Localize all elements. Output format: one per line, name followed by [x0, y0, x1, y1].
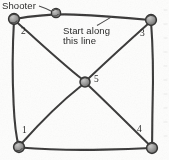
vertex-label-4: 4: [137, 125, 142, 135]
marble-2-top-left: [9, 14, 20, 25]
scan-bleed-marks: [164, 10, 167, 136]
marble-shooter: [51, 8, 60, 17]
square-edge-top: [15, 14, 150, 20]
marble-1-bottom-left: [14, 142, 25, 153]
start-note: Start along this line: [63, 26, 110, 46]
marble-3-top-right: [146, 15, 157, 26]
marble-5-center: [80, 77, 90, 87]
square-edge-bottom: [20, 148, 151, 150]
square-edge-right: [151, 21, 153, 147]
shooter-label: Shooter: [2, 1, 36, 11]
marble-game-diagram: Shooter Start along this line 2 3 1 4 5: [0, 0, 169, 160]
vertex-label-1: 1: [22, 126, 27, 136]
diagonal-5-to-4: [89, 86, 150, 145]
vertex-label-2: 2: [21, 27, 26, 37]
marble-4-bottom-right: [147, 143, 158, 154]
shooter-leader-line: [39, 6, 52, 12]
diagonal-5-to-1: [22, 86, 82, 144]
vertex-label-5: 5: [94, 75, 99, 85]
diagram-canvas: [0, 0, 169, 160]
vertex-label-3: 3: [140, 29, 145, 39]
square-edge-left: [13, 20, 19, 147]
start-note-line-2: this line: [63, 36, 110, 46]
